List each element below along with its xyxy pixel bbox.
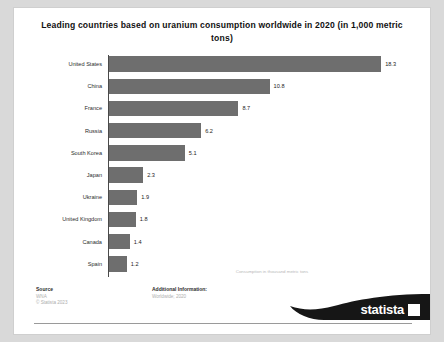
- bar-row: United States18.3: [22, 53, 422, 75]
- bar-value-label: 1.2: [131, 253, 139, 275]
- chart-footer: Source WNA © Statista 2023 Additional In…: [14, 286, 430, 334]
- bar[interactable]: [109, 56, 381, 71]
- bar-value-label: 1.9: [141, 186, 149, 208]
- source-block: Source WNA © Statista 2023: [36, 286, 67, 307]
- bar-row: Japan2.3: [22, 164, 422, 186]
- bar-value-label: 18.3: [385, 53, 396, 75]
- bar[interactable]: [109, 79, 270, 94]
- category-label: Spain: [22, 253, 102, 275]
- logo-glyph-icon: [408, 304, 420, 316]
- chart-page: Leading countries based on uranium consu…: [0, 0, 444, 342]
- category-label: United Kingdom: [22, 208, 102, 230]
- additional-info-block: Additional Information: Worldwide; 2020: [152, 286, 207, 300]
- bar[interactable]: [109, 101, 238, 116]
- additional-info-heading: Additional Information:: [152, 286, 207, 292]
- bar[interactable]: [109, 190, 137, 205]
- category-label: China: [22, 75, 102, 97]
- bar-value-label: 10.8: [274, 75, 285, 97]
- bar[interactable]: [109, 167, 143, 182]
- category-label: Ukraine: [22, 186, 102, 208]
- bar-row: United Kingdom1.8: [22, 208, 422, 230]
- bar[interactable]: [109, 234, 130, 249]
- category-label: Japan: [22, 164, 102, 186]
- x-axis-caption: Consumption in thousand metric tons: [162, 269, 382, 274]
- bar-row: Canada1.4: [22, 231, 422, 253]
- source-heading: Source: [36, 286, 67, 292]
- category-label: France: [22, 97, 102, 119]
- source-line: © Statista 2023: [36, 300, 67, 306]
- bar-value-label: 8.7: [242, 97, 250, 119]
- logo-wordmark: statista: [361, 303, 404, 317]
- bar[interactable]: [109, 145, 185, 160]
- bar[interactable]: [109, 212, 136, 227]
- category-label: Canada: [22, 231, 102, 253]
- bar-value-label: 6.2: [205, 120, 213, 142]
- bar[interactable]: [109, 256, 127, 271]
- bar-value-label: 5.1: [189, 142, 197, 164]
- bar-row: France8.7: [22, 97, 422, 119]
- category-label: South Korea: [22, 142, 102, 164]
- bar-value-label: 1.4: [134, 231, 142, 253]
- bar-row: China10.8: [22, 75, 422, 97]
- category-label: United States: [22, 53, 102, 75]
- bar[interactable]: [109, 123, 201, 138]
- bar-row: South Korea5.1: [22, 142, 422, 164]
- chart-title: Leading countries based on uranium consu…: [40, 19, 404, 45]
- chart-card: Leading countries based on uranium consu…: [14, 8, 430, 334]
- bar-row: Russia6.2: [22, 120, 422, 142]
- plot-area: United States18.3China10.8France8.7Russi…: [22, 53, 422, 281]
- category-label: Russia: [22, 120, 102, 142]
- bar-value-label: 2.3: [147, 164, 155, 186]
- bar-value-label: 1.8: [140, 208, 148, 230]
- statista-logo[interactable]: statista: [290, 294, 430, 328]
- bar-row: Ukraine1.9: [22, 186, 422, 208]
- additional-info-line: Worldwide; 2020: [152, 294, 207, 300]
